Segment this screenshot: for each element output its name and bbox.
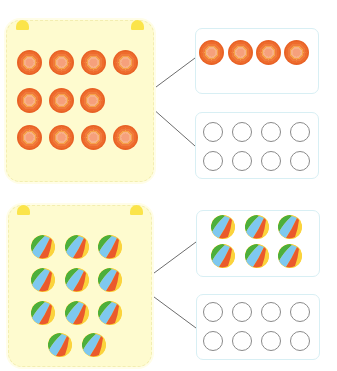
- flower-icon: [49, 88, 74, 113]
- flower-icon: [49, 50, 74, 75]
- empty-circle-slot[interactable]: [290, 302, 310, 322]
- empty-circle-slot[interactable]: [261, 122, 281, 142]
- flower-icon: [113, 125, 138, 150]
- empty-circle-slot[interactable]: [203, 151, 223, 171]
- connector-line-flowers-to-option-2[interactable]: [152, 108, 195, 146]
- ear-right-decoration: [131, 20, 144, 30]
- ear-left-decoration: [17, 205, 30, 215]
- beach-ball-icon: [98, 268, 122, 292]
- beach-ball-icon: [245, 244, 269, 268]
- ear-left-decoration: [16, 20, 29, 30]
- connector-line-balls-to-option-1[interactable]: [150, 242, 196, 276]
- empty-circle-slot[interactable]: [203, 122, 223, 142]
- connector-line-flowers-to-option-1[interactable]: [152, 58, 195, 90]
- flower-icon: [228, 40, 253, 65]
- flower-icon: [81, 50, 106, 75]
- beach-ball-icon: [65, 268, 89, 292]
- beach-ball-icon: [98, 301, 122, 325]
- flower-icon: [113, 50, 138, 75]
- ear-right-decoration: [130, 205, 143, 215]
- empty-circle-slot[interactable]: [261, 331, 281, 351]
- flower-icon: [256, 40, 281, 65]
- connector-line-balls-to-option-2[interactable]: [150, 294, 196, 328]
- beach-ball-icon: [31, 268, 55, 292]
- empty-circle-slot[interactable]: [203, 331, 223, 351]
- beach-ball-icon: [65, 301, 89, 325]
- beach-ball-icon: [48, 333, 72, 357]
- beach-ball-icon: [278, 215, 302, 239]
- beach-ball-icon: [31, 235, 55, 259]
- beach-ball-icon: [245, 215, 269, 239]
- flower-icon: [17, 50, 42, 75]
- beach-ball-icon: [82, 333, 106, 357]
- flower-icon: [80, 88, 105, 113]
- beach-ball-icon: [278, 244, 302, 268]
- flower-icon: [49, 125, 74, 150]
- empty-circle-slot[interactable]: [232, 331, 252, 351]
- empty-circle-slot[interactable]: [232, 151, 252, 171]
- beach-ball-icon: [211, 244, 235, 268]
- empty-circle-slot[interactable]: [203, 302, 223, 322]
- flower-icon: [17, 88, 42, 113]
- empty-circle-slot[interactable]: [232, 122, 252, 142]
- beach-ball-icon: [98, 235, 122, 259]
- beach-ball-icon: [65, 235, 89, 259]
- empty-circle-slot[interactable]: [261, 151, 281, 171]
- empty-circle-slot[interactable]: [261, 302, 281, 322]
- flower-icon: [199, 40, 224, 65]
- empty-circle-slot[interactable]: [290, 151, 310, 171]
- beach-ball-icon: [31, 301, 55, 325]
- empty-circle-slot[interactable]: [290, 331, 310, 351]
- flower-icon: [17, 125, 42, 150]
- beach-ball-icon: [211, 215, 235, 239]
- empty-circle-slot[interactable]: [232, 302, 252, 322]
- flower-icon: [81, 125, 106, 150]
- flower-icon: [284, 40, 309, 65]
- empty-circle-slot[interactable]: [290, 122, 310, 142]
